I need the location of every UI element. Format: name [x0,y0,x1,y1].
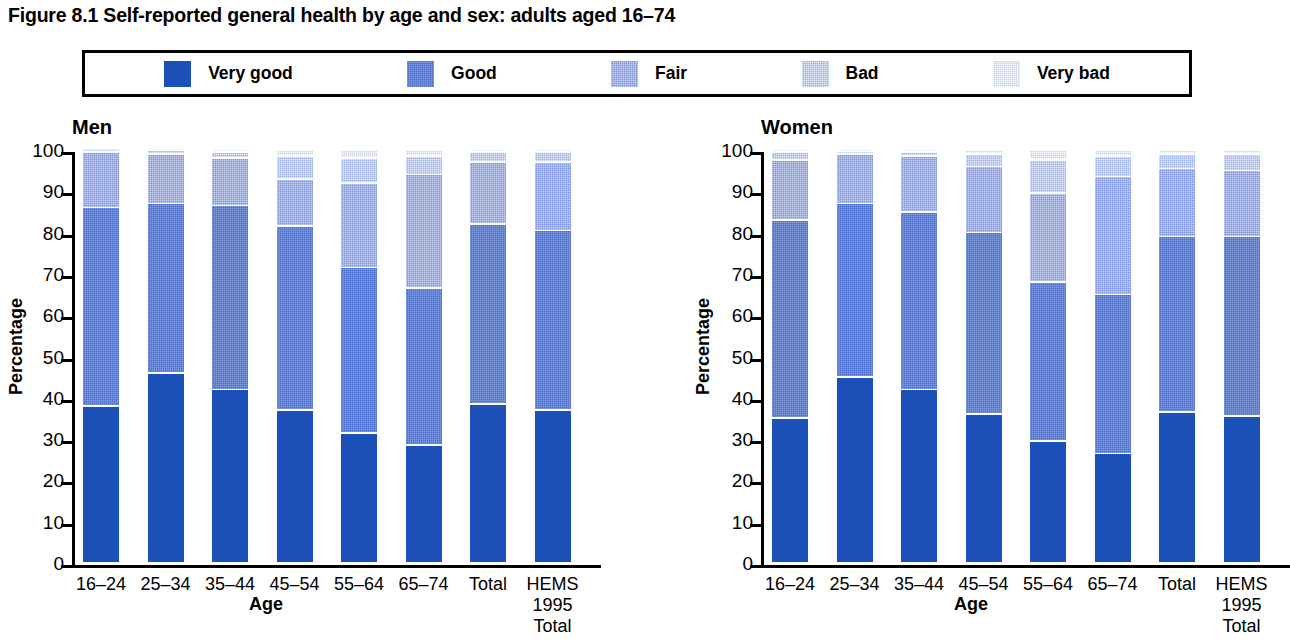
bar-segment-fair[interactable] [901,157,937,211]
bar-segment-good[interactable] [1224,237,1260,415]
bar-segment-fair[interactable] [1159,169,1195,236]
stacked-bar[interactable] [535,149,571,562]
bar-segment-fair[interactable] [1030,194,1066,281]
stacked-bar[interactable] [148,149,184,562]
stacked-bar[interactable] [1095,149,1131,562]
bar-segment-good[interactable] [1159,237,1195,411]
bar-segment-very-good[interactable] [837,378,873,562]
bar-segment-very-bad[interactable] [1224,151,1260,154]
bar-segment-very-bad[interactable] [1030,151,1066,160]
bar-segment-good[interactable] [1030,283,1066,440]
bar-segment-very-good[interactable] [277,411,313,562]
legend-item-good[interactable]: Good [407,61,497,87]
bar-segment-bad[interactable] [212,153,248,158]
stacked-bar[interactable] [966,149,1002,562]
bar-segment-fair[interactable] [212,159,248,205]
bar-segment-bad[interactable] [1224,155,1260,170]
bar-segment-very-good[interactable] [901,390,937,562]
bar-segment-fair[interactable] [1224,171,1260,235]
bar-segment-bad[interactable] [901,153,937,156]
bar-segment-very-good[interactable] [1224,417,1260,562]
bar-segment-very-good[interactable] [470,405,506,562]
bar-segment-bad[interactable] [772,153,808,160]
bar-segment-very-bad[interactable] [1095,151,1131,156]
bar-segment-fair[interactable] [837,155,873,203]
bar-segment-very-bad[interactable] [535,150,571,151]
bar-segment-good[interactable] [901,213,937,389]
bar-segment-fair[interactable] [1095,177,1131,293]
bar-segment-bad[interactable] [470,153,506,162]
stacked-bar[interactable] [83,149,119,562]
bar-segment-good[interactable] [470,225,506,403]
bar-segment-very-good[interactable] [212,390,248,562]
bar-segment-very-bad[interactable] [837,150,873,151]
bar-segment-very-bad[interactable] [341,151,377,158]
stacked-bar[interactable] [1224,149,1260,562]
bar-segment-very-bad[interactable] [470,150,506,151]
bar-segment-bad[interactable] [406,157,442,174]
bar-segment-very-bad[interactable] [277,151,313,156]
bar-segment-bad[interactable] [1159,155,1195,168]
bar-segment-bad[interactable] [966,155,1002,166]
bar-segment-good[interactable] [341,268,377,432]
stacked-bar[interactable] [406,149,442,562]
bar-segment-fair[interactable] [277,180,313,226]
bar-segment-bad[interactable] [535,153,571,162]
bar-segment-very-bad[interactable] [1159,151,1195,154]
bar-segment-fair[interactable] [406,175,442,287]
bar-segment-bad[interactable] [341,159,377,182]
legend-item-fair[interactable]: Fair [611,61,687,87]
bar-segment-fair[interactable] [148,155,184,203]
bar-segment-very-good[interactable] [535,411,571,562]
stacked-bar[interactable] [341,149,377,562]
bar-segment-very-bad[interactable] [966,151,1002,154]
bar-segment-good[interactable] [1095,295,1131,452]
bar-segment-very-bad[interactable] [406,151,442,156]
bar-segment-very-bad[interactable] [83,149,119,150]
bar-segment-very-good[interactable] [966,415,1002,562]
stacked-bar[interactable] [470,149,506,562]
bar-segment-fair[interactable] [341,184,377,267]
legend-item-very-bad[interactable]: Very bad [993,61,1110,87]
bar-segment-very-good[interactable] [1030,442,1066,562]
stacked-bar[interactable] [212,149,248,562]
bar-segment-very-bad[interactable] [772,150,808,151]
bar-segment-very-good[interactable] [148,374,184,562]
legend-item-bad[interactable]: Bad [802,61,879,87]
bar-segment-good[interactable] [406,289,442,444]
bar-segment-very-bad[interactable] [212,150,248,151]
bar-segment-good[interactable] [966,233,1002,413]
bar-segment-good[interactable] [277,227,313,409]
bar-segment-bad[interactable] [1095,157,1131,176]
bar-segment-very-good[interactable] [772,419,808,562]
bar-segment-good[interactable] [837,204,873,376]
bar-segment-fair[interactable] [772,161,808,219]
bar-segment-good[interactable] [535,231,571,409]
bar-segment-very-good[interactable] [1095,454,1131,562]
bar-segment-very-good[interactable] [341,434,377,562]
bar-segment-very-good[interactable] [83,407,119,562]
stacked-bar[interactable] [901,149,937,562]
bar-segment-good[interactable] [148,204,184,372]
bar-segment-very-bad[interactable] [901,150,937,151]
stacked-bar[interactable] [1159,149,1195,562]
bar-segment-fair[interactable] [535,163,571,230]
bar-segment-very-bad[interactable] [148,149,184,150]
bar-segment-very-good[interactable] [1159,413,1195,562]
stacked-bar[interactable] [1030,149,1066,562]
bar-segment-bad[interactable] [83,150,119,151]
bar-segment-bad[interactable] [837,152,873,153]
stacked-bar[interactable] [277,149,313,562]
stacked-bar[interactable] [772,149,808,562]
bar-segment-bad[interactable] [148,151,184,153]
bar-segment-very-good[interactable] [406,446,442,562]
stacked-bar[interactable] [837,149,873,562]
bar-segment-fair[interactable] [470,163,506,223]
bar-segment-good[interactable] [212,206,248,388]
legend-item-very-good[interactable]: Very good [164,61,293,87]
bar-segment-good[interactable] [83,208,119,405]
bar-segment-fair[interactable] [966,167,1002,231]
bar-segment-good[interactable] [772,221,808,418]
bar-segment-bad[interactable] [277,157,313,178]
bar-segment-bad[interactable] [1030,161,1066,192]
